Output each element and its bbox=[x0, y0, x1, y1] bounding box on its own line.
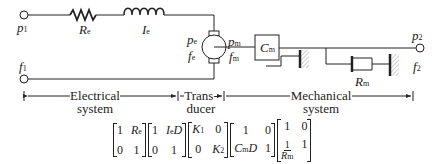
label-p2: p2 bbox=[412, 29, 423, 44]
label-fe: fe bbox=[188, 49, 195, 64]
label-cm: Cm bbox=[260, 41, 275, 56]
resistor-icon bbox=[70, 10, 96, 20]
label-pe: pe bbox=[187, 33, 197, 48]
matrix-inductor: 1 IeD 0 1 bbox=[148, 123, 186, 157]
label-pm: pm bbox=[228, 35, 241, 50]
inductor-icon bbox=[124, 8, 164, 15]
terminal-f1 bbox=[20, 75, 28, 83]
section-electrical: Electricalsystem bbox=[70, 89, 120, 115]
transfer-matrix-product: 1 Re 0 1 1 IeD 0 1 K1 0 0 K2 1 0 CmD 1 1… bbox=[113, 123, 313, 157]
label-f2: f2 bbox=[413, 60, 421, 75]
label-fm: fm bbox=[229, 50, 239, 65]
bottom-electrical-wire bbox=[28, 62, 214, 79]
label-f1: f1 bbox=[19, 60, 27, 75]
terminal-p1 bbox=[20, 11, 28, 19]
matrix-compliance: 1 0 CmD 1 bbox=[230, 123, 275, 157]
section-mechanical: Mechanicalsystem bbox=[290, 89, 352, 115]
label-ie: Ie bbox=[142, 23, 150, 38]
label-rm: Rm bbox=[355, 75, 369, 90]
label-p1: p1 bbox=[17, 21, 28, 36]
matrix-resistor: 1 Re 0 1 bbox=[113, 123, 146, 157]
top-electrical-wire bbox=[28, 8, 214, 32]
matrix-damper: 1 0 1Rm 1 bbox=[277, 119, 311, 162]
terminal-p2 bbox=[416, 44, 424, 52]
label-re: Re bbox=[79, 23, 91, 38]
damper-icon bbox=[326, 48, 399, 76]
section-transducer: Trans-ducer bbox=[178, 89, 224, 115]
matrix-transducer: K1 0 0 K2 bbox=[188, 122, 228, 158]
